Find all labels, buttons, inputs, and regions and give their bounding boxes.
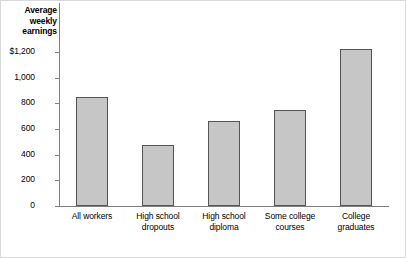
y-axis-tick-label: 400 [0,150,35,159]
x-axis-category-label-line: High school [125,211,191,222]
x-axis-category-label-line: All workers [59,211,125,222]
y-axis-tick-label: 1,000 [0,73,35,82]
x-axis-category-label-line: dropouts [125,222,191,233]
y-axis-title: Average weekly earnings [3,5,57,37]
y-axis-tick-label: $1,200 [0,47,35,56]
x-axis-category-label-line: courses [257,222,323,233]
x-axis-category-label: Some collegecourses [257,211,323,233]
bar [274,110,306,206]
x-axis-category-label: High schooldiploma [191,211,257,233]
y-axis-tick-label: 800 [0,98,35,107]
x-axis-category-label-line: College [323,211,389,222]
x-axis-category-label: All workers [59,211,125,222]
y-axis-tick-label: 0 [0,201,35,210]
plot-area: 02004006008001,000$1,200 [59,3,389,207]
y-axis-tick-label: 200 [0,175,35,184]
bar-chart: Average weekly earnings 02004006008001,0… [0,0,406,258]
x-axis-category-label-line: diploma [191,222,257,233]
y-axis-tick-label: 600 [0,124,35,133]
bar [208,121,240,206]
bar [340,49,372,206]
x-axis-category-label-line: graduates [323,222,389,233]
y-axis-title-line-2: weekly [3,16,57,27]
x-axis-category-label-line: Some college [257,211,323,222]
x-axis-category-label: Collegegraduates [323,211,389,233]
y-axis-title-line-1: Average [3,5,57,16]
bar [142,145,174,206]
y-axis-title-line-3: earnings [3,26,57,37]
x-axis-category-label: High schooldropouts [125,211,191,233]
bar [76,97,108,206]
x-axis-category-labels: All workersHigh schooldropoutsHigh schoo… [59,211,389,253]
x-axis-category-label-line: High school [191,211,257,222]
bar-series [59,3,389,207]
